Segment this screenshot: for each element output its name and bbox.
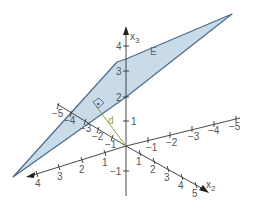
x1-neg-tick-5: −5: [52, 108, 64, 119]
x1-tick-2: 2: [79, 164, 85, 175]
x1-neg-tick-1: −1: [105, 139, 117, 150]
x2-neg-tick-4: −4: [208, 125, 220, 136]
x2-axis-negative: [126, 118, 240, 146]
x1-neg-tick-3: −3: [80, 123, 92, 134]
x2-axis-label: x2: [206, 179, 216, 193]
x1-tick-4: 4: [35, 178, 41, 189]
x1-neg-tick-2: −2: [92, 131, 104, 142]
x2-tick-3: 3: [164, 172, 170, 183]
x1-tick-3: 3: [57, 171, 63, 182]
plane-e: [13, 14, 232, 177]
3d-coordinate-diagram: 4 3 2 1 −1 x3 1 2 3 4 5 x2 −1 −2 −3 −4 −…: [0, 0, 254, 209]
x2-neg-tick-3: −3: [188, 131, 200, 142]
x3-tick-4: 4: [116, 41, 122, 52]
x3-arrow-icon: [123, 26, 129, 35]
x2-tick-4: 4: [178, 180, 184, 191]
x2-tick-1: 1: [136, 156, 142, 167]
x1-tick-1: 1: [102, 157, 108, 168]
x3-tick-neg1: −1: [110, 166, 122, 177]
x2-tick-2: 2: [150, 164, 156, 175]
x3-tick-3: 3: [116, 66, 122, 77]
plane-label: E: [150, 46, 157, 57]
x2-neg-tick-2: −2: [166, 137, 178, 148]
x3-axis-label: x3: [130, 31, 140, 45]
x2-tick-5: 5: [192, 188, 198, 199]
x1-neg-tick-4: −4: [64, 115, 76, 126]
x3-tick-2: 2: [116, 92, 122, 103]
x1-arrow-icon: [26, 172, 35, 178]
x2-axis: [126, 146, 205, 190]
x2-neg-tick-1: −1: [146, 142, 158, 153]
distance-label: d: [108, 115, 114, 126]
x2-neg-tick-5: −5: [229, 121, 241, 132]
x3-tick-1: 1: [131, 116, 137, 127]
